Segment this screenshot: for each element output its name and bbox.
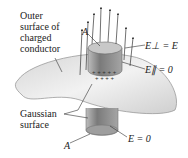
- area-top-label: A: [82, 26, 88, 37]
- label-line: surface of: [20, 21, 60, 32]
- area-bottom-label: A: [64, 140, 70, 151]
- label-line: charged: [20, 32, 60, 43]
- gaussian-surface-label: Gaussian surface: [20, 108, 57, 130]
- svg-text:+ + + +: + + + +: [95, 75, 115, 81]
- label-line: Outer: [20, 10, 60, 21]
- e-perp-label: E⊥ = E: [145, 40, 178, 51]
- gauss-conductor-diagram: + + + + + + + + + Outer surface of: [0, 0, 188, 158]
- e-parallel-label: E∥ = 0: [145, 64, 173, 75]
- e-inside-label: E = 0: [128, 133, 151, 144]
- label-line: Gaussian: [20, 108, 57, 119]
- label-line: conductor: [20, 43, 60, 54]
- label-line: surface: [20, 119, 57, 130]
- outer-surface-label: Outer surface of charged conductor: [20, 10, 60, 54]
